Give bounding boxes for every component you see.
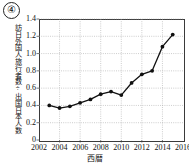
data-line xyxy=(49,35,172,108)
figure-container: ④ 訪日外国人旅行者数÷出国日本人数 00.20.40.60.81.01.21.… xyxy=(0,0,189,168)
x-tick-label: 2016 xyxy=(170,144,189,152)
y-tick-label: 0.4 xyxy=(16,101,36,109)
y-tick-label: 1.0 xyxy=(16,50,36,58)
y-tick-label: 1.4 xyxy=(16,15,36,23)
grid-lines xyxy=(39,19,183,140)
y-tick-label: 1.2 xyxy=(16,32,36,40)
y-tick-label: 0.8 xyxy=(16,67,36,75)
y-tick-label: 0.2 xyxy=(16,119,36,127)
line-chart-plot xyxy=(39,19,183,140)
x-axis-title: 西暦 xyxy=(0,152,189,163)
y-tick-label: 0.6 xyxy=(16,84,36,92)
data-markers xyxy=(47,33,174,110)
